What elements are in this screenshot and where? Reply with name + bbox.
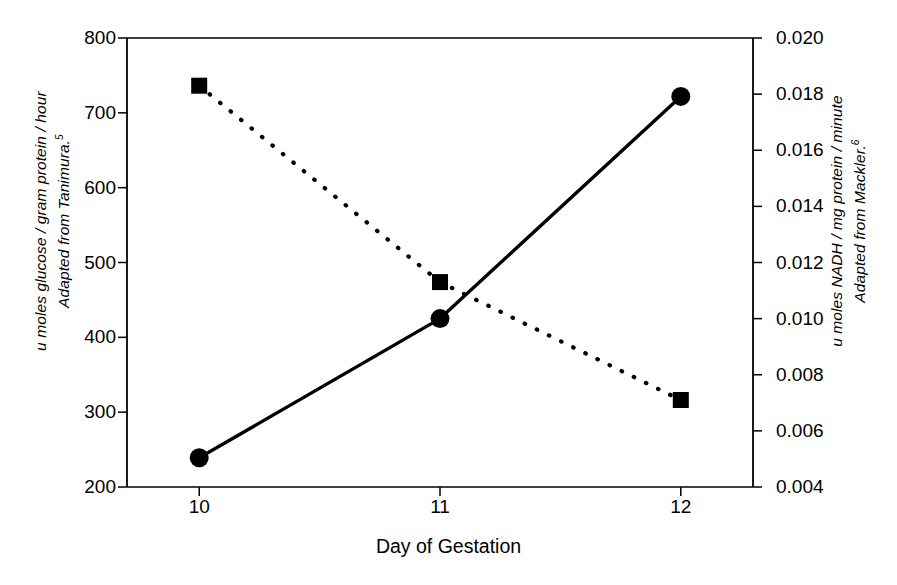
series-marker-circle <box>190 448 209 467</box>
series-marker-circle <box>671 87 690 106</box>
series-line-1 <box>199 86 681 400</box>
plot-area <box>0 0 897 585</box>
x-axis-title: Day of Gestation <box>0 535 897 558</box>
chart-figure: u moles glucose / gram protein / hour Ad… <box>0 0 897 585</box>
series-marker-square <box>191 78 207 94</box>
series-marker-circle <box>431 309 450 328</box>
series-marker-square <box>432 274 448 290</box>
series-marker-square <box>673 392 689 408</box>
